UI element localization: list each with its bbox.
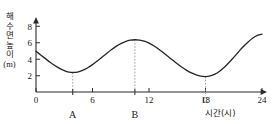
y-tick-label-2: 2 [28, 71, 33, 81]
x-tick-label-24: 24 [258, 95, 268, 105]
x-axis-title: 시간(시) [205, 106, 236, 118]
annotation-label-B: B [132, 109, 139, 120]
y-axis-unit: (m) [3, 60, 15, 70]
annotation-guides [73, 40, 206, 94]
y-tick-label-6: 6 [28, 38, 33, 48]
annotation-label-C: C [202, 95, 208, 105]
x-axis-ticks [36, 88, 262, 92]
y-axis-tick-labels: 8 6 4 2 [28, 22, 33, 82]
y-tick-label-4: 4 [28, 55, 33, 65]
x-tick-label-6: 6 [90, 95, 95, 105]
x-axis-tick-labels: 0 6 12 18 24 [34, 95, 267, 105]
y-axis-arrowhead [33, 17, 39, 23]
sea-level-curve [36, 34, 262, 76]
x-tick-label-12: 12 [145, 95, 154, 105]
y-tick-label-8: 8 [28, 22, 33, 32]
y-axis-title: 해 수 면 높 이 (m) [1, 12, 18, 69]
annotation-label-A: A [69, 109, 77, 120]
x-tick-label-0: 0 [34, 95, 39, 105]
sea-level-chart: 8 6 4 2 0 6 12 18 24 ABC 해 [0, 0, 275, 124]
